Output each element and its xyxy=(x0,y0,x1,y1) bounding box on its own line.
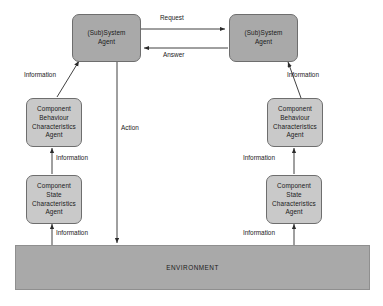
node-environment[interactable]: ENVIRONMENT xyxy=(15,245,370,290)
edge-right-behaviour-to-system xyxy=(288,62,301,98)
node-right-state-agent[interactable]: Component State Characteristics Agent xyxy=(266,175,322,224)
node-left-behaviour-agent[interactable]: Component Behaviour Characteristics Agen… xyxy=(26,98,82,147)
node-right-behaviour-agent-line4: Agent xyxy=(286,131,303,138)
node-left-behaviour-agent-line3: Characteristics xyxy=(32,123,76,130)
node-right-behaviour-agent-line1: Component xyxy=(278,105,312,112)
edge-label-left-lower-information: Information xyxy=(56,229,88,237)
node-right-state-agent-line4: Agent xyxy=(285,208,302,215)
node-environment-label: ENVIRONMENT xyxy=(166,264,219,271)
node-left-system-agent-text: (Sub)System Agent xyxy=(74,29,139,46)
node-right-system-agent-line2: Agent xyxy=(255,38,272,45)
node-right-state-agent-line3: Characteristics xyxy=(272,200,316,207)
node-left-system-agent-line2: Agent xyxy=(98,38,115,45)
edge-label-right-middle-information: Information xyxy=(243,154,275,162)
node-left-state-agent-line4: Agent xyxy=(45,208,62,215)
edge-label-left-middle-information: Information xyxy=(56,154,88,162)
node-right-state-agent-text: Component State Characteristics Agent xyxy=(268,182,320,216)
node-left-behaviour-agent-line1: Component xyxy=(37,105,71,112)
node-left-state-agent-line3: Characteristics xyxy=(32,200,76,207)
node-right-state-agent-line1: Component xyxy=(277,182,311,189)
node-right-behaviour-agent-text: Component Behaviour Characteristics Agen… xyxy=(269,105,321,139)
node-left-system-agent-line1: (Sub)System xyxy=(87,29,125,36)
diagram-canvas: (Sub)System Agent (Sub)System Agent Comp… xyxy=(0,0,383,306)
node-left-behaviour-agent-text: Component Behaviour Characteristics Agen… xyxy=(28,105,80,139)
node-left-state-agent-line1: Component xyxy=(37,182,71,189)
node-right-behaviour-agent[interactable]: Component Behaviour Characteristics Agen… xyxy=(267,98,323,147)
node-left-system-agent[interactable]: (Sub)System Agent xyxy=(72,14,141,62)
node-right-system-agent-line1: (Sub)System xyxy=(244,29,282,36)
edge-label-right-lower-information: Information xyxy=(243,229,275,237)
edge-label-request: Request xyxy=(160,14,184,22)
node-left-state-agent-line2: State xyxy=(46,191,61,198)
node-left-behaviour-agent-line2: Behaviour xyxy=(39,114,69,121)
node-right-state-agent-line2: State xyxy=(286,191,301,198)
node-right-system-agent-text: (Sub)System Agent xyxy=(231,29,296,46)
edge-left-behaviour-to-system xyxy=(57,61,79,97)
edge-label-right-upper-information: Information xyxy=(287,71,319,79)
node-right-system-agent[interactable]: (Sub)System Agent xyxy=(229,14,298,62)
node-left-state-agent[interactable]: Component State Characteristics Agent xyxy=(26,175,82,224)
edge-label-answer: Answer xyxy=(163,51,184,59)
node-left-state-agent-text: Component State Characteristics Agent xyxy=(28,182,80,216)
edge-label-left-upper-information: Information xyxy=(24,71,56,79)
node-right-behaviour-agent-line2: Behaviour xyxy=(280,114,310,121)
node-right-behaviour-agent-line3: Characteristics xyxy=(273,123,317,130)
edge-label-action: Action xyxy=(121,124,139,132)
node-left-behaviour-agent-line4: Agent xyxy=(45,131,62,138)
